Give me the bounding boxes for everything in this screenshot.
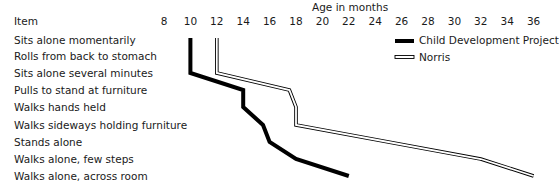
series-line-child-development-project [190,38,348,176]
legend-swatch-norris [395,56,414,59]
series-line-norris [217,38,534,176]
legend-label-norris: Norris [419,51,450,63]
legend-label-child-development-project: Child Development Project [419,34,559,46]
series-line-norris-inner [217,38,534,176]
legend [395,41,414,59]
